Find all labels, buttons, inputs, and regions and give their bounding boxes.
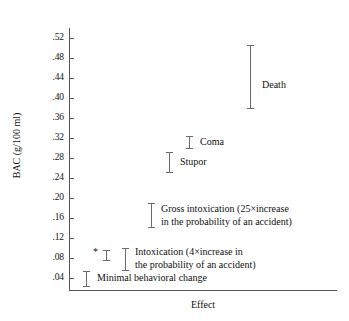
errorbar-cap-bottom <box>148 227 155 228</box>
y-tick-label: .36 <box>38 113 64 123</box>
y-tick-mark <box>69 178 74 179</box>
label-minimal-behavioral-change: Minimal behavioral change <box>97 272 207 284</box>
y-tick-label: .52 <box>38 33 64 43</box>
errorbar-stem <box>86 271 87 287</box>
bac-effect-chart: .52 .48 .44 .40 .36 .32 .28 .24 .20 .16 … <box>0 0 349 321</box>
errorbar-cap-bottom <box>122 270 129 271</box>
errorbar-stem <box>169 152 170 173</box>
y-tick-mark <box>69 158 74 159</box>
errorbar-cap-bottom <box>103 260 110 261</box>
x-axis-line <box>69 290 337 291</box>
errorbar-cap-bottom <box>247 108 254 109</box>
y-tick-label: .04 <box>38 273 64 283</box>
y-tick-mark <box>69 38 74 39</box>
y-tick-mark <box>69 218 74 219</box>
errorbar-cap-bottom <box>83 286 90 287</box>
label-gross-intoxication-line2: in the probability of an accident) <box>161 216 292 228</box>
label-stupor: Stupor <box>180 156 207 168</box>
y-axis-title: BAC (g/100 ml) <box>11 86 22 206</box>
y-tick-mark <box>69 138 74 139</box>
y-tick-mark <box>69 238 74 239</box>
errorbar-stem <box>151 203 152 228</box>
y-tick-mark <box>69 198 74 199</box>
y-tick-label: .48 <box>38 53 64 63</box>
y-tick-mark <box>69 118 74 119</box>
y-tick-label: .32 <box>38 133 64 143</box>
label-death: Death <box>262 79 286 91</box>
label-gross-intoxication-line1: Gross intoxication (25×increase <box>161 203 289 215</box>
y-tick-mark <box>69 258 74 259</box>
y-tick-label: .40 <box>38 93 64 103</box>
y-tick-label: .12 <box>38 233 64 243</box>
y-tick-label: .28 <box>38 153 64 163</box>
errorbar-cap-bottom <box>166 172 173 173</box>
y-axis-line <box>69 28 70 291</box>
y-tick-label: .20 <box>38 193 64 203</box>
y-tick-mark <box>69 98 74 99</box>
y-tick-label: .16 <box>38 213 64 223</box>
y-tick-mark <box>69 58 74 59</box>
label-coma: Coma <box>200 136 224 148</box>
y-tick-label: .44 <box>38 73 64 83</box>
y-tick-label: .08 <box>38 253 64 263</box>
label-intoxication-line2: the probability of an accident) <box>135 259 256 271</box>
y-tick-label: .24 <box>38 173 64 183</box>
label-intoxication-line1: Intoxication (4×increase in <box>135 246 243 258</box>
asterisk-annotation: * <box>93 247 98 257</box>
y-tick-mark <box>69 278 74 279</box>
errorbar-cap-bottom <box>186 148 193 149</box>
errorbar-stem <box>125 248 126 271</box>
x-axis-title: Effect <box>69 299 337 310</box>
y-tick-mark <box>69 78 74 79</box>
errorbar-stem <box>250 45 251 109</box>
